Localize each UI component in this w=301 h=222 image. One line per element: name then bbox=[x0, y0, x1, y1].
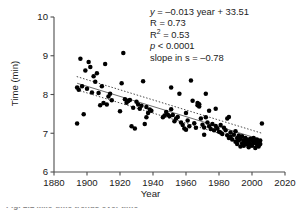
svg-text:1960: 1960 bbox=[175, 177, 196, 188]
svg-text:2020: 2020 bbox=[274, 177, 295, 188]
equation-expression: = –0.013 year + 33.51 bbox=[155, 6, 249, 17]
svg-text:9: 9 bbox=[43, 50, 48, 61]
svg-text:1980: 1980 bbox=[208, 177, 229, 188]
svg-text:1900: 1900 bbox=[76, 177, 97, 188]
svg-text:8: 8 bbox=[43, 89, 48, 100]
svg-text:1880: 1880 bbox=[43, 177, 64, 188]
svg-text:7: 7 bbox=[43, 128, 48, 139]
annotation-p-value: p < 0.0001 bbox=[150, 40, 249, 51]
annotation-r: R = 0.73 bbox=[150, 17, 249, 28]
svg-text:1940: 1940 bbox=[142, 177, 163, 188]
statistics-annotation: y = –0.013 year + 33.51 R = 0.73 R2 = 0.… bbox=[150, 6, 249, 63]
svg-text:1920: 1920 bbox=[109, 177, 130, 188]
annotation-r-squared: R2 = 0.53 bbox=[150, 29, 249, 40]
x-axis-title: Year bbox=[0, 188, 301, 199]
data-points bbox=[75, 51, 264, 150]
svg-text:2000: 2000 bbox=[241, 177, 262, 188]
scatter-chart-figure: 67891018801900192019401960198020002020 y… bbox=[0, 0, 301, 222]
caption-text: Fig. 1.1 Mile-time trends over time bbox=[6, 207, 301, 210]
annotation-equation: y = –0.013 year + 33.51 bbox=[150, 6, 249, 17]
p-value-text: < 0.0001 bbox=[155, 40, 194, 51]
svg-text:10: 10 bbox=[37, 11, 48, 22]
figure-caption-clipped: Fig. 1.1 Mile-time trends over time bbox=[6, 207, 301, 222]
annotation-slope: slope in s = –0.78 bbox=[150, 52, 249, 63]
r-squared-value: = 0.53 bbox=[161, 29, 190, 40]
r-squared-base: R bbox=[150, 29, 157, 40]
y-axis-title: Time (min) bbox=[9, 44, 20, 124]
